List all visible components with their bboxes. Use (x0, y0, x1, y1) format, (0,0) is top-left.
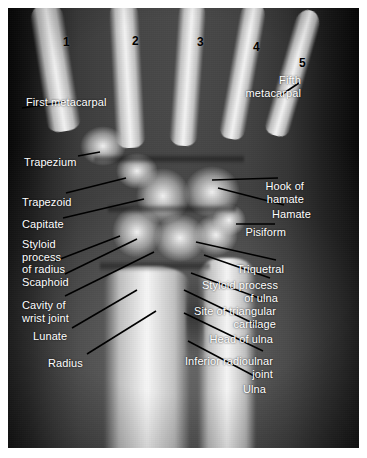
metacarpal-number-4: 4 (253, 41, 260, 53)
label-trapezium: Trapezium (24, 156, 76, 169)
metacarpal-number-1: 1 (63, 36, 70, 48)
label-inferior-radioulnar-joint: Inferior radioulnar joint (185, 355, 273, 380)
xray-figure: First metacarpalTrapeziumTrapezoidCapita… (0, 0, 367, 458)
label-head-of-ulna: Head of ulna (209, 333, 273, 346)
leader-radius (87, 311, 156, 354)
label-styloid-process-of-radius: Styloid process of radius (22, 238, 65, 276)
label-first-metacarpal: First metacarpal (26, 96, 106, 109)
label-triquetral: Triquetral (237, 263, 284, 276)
metacarpal-number-2: 2 (132, 35, 139, 47)
label-styloid-process-of-ulna: Styloid process of ulna (202, 279, 278, 304)
metacarpal-number-5: 5 (299, 57, 306, 69)
label-pisiform: Pisiform (245, 226, 286, 239)
label-hook-of-hamate: Hook of hamate (265, 180, 304, 205)
radiograph-plate: First metacarpalTrapeziumTrapezoidCapita… (8, 8, 359, 448)
label-site-of-triangular-cartilage: Site of triangular cartilage (194, 305, 276, 330)
label-hamate: Hamate (272, 208, 311, 221)
leader-triquetral (196, 242, 276, 260)
label-cavity-of-wrist-joint: Cavity of wrist joint (22, 299, 69, 324)
label-capitate: Capitate (22, 218, 64, 231)
label-radius: Radius (48, 357, 83, 370)
label-trapezoid: Trapezoid (22, 196, 71, 209)
label-lunate: Lunate (33, 330, 67, 343)
leader-trapezium (78, 152, 100, 156)
leader-trapezoid (66, 178, 126, 193)
label-scaphoid: Scaphoid (22, 276, 69, 289)
metacarpal-number-3: 3 (197, 36, 204, 48)
leader-cavity-wrist (65, 252, 154, 296)
label-fifth-metacarpal: Fifth metacarpal (246, 74, 301, 99)
leader-lunate (72, 290, 137, 328)
leader-capitate (63, 199, 144, 218)
label-ulna: Ulna (243, 383, 266, 396)
leader-scaphoid (65, 239, 137, 274)
